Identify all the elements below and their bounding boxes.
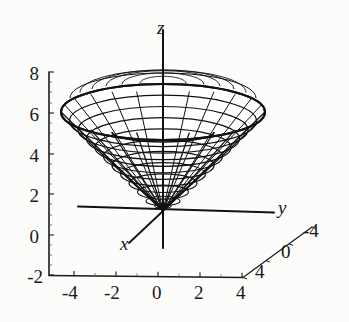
z-axis-name: z — [157, 18, 164, 37]
z-tick-label-6: 6 — [30, 105, 40, 124]
depth-tick-label-neg4: -4 — [303, 221, 319, 240]
z-tick-label-neg2: -2 — [27, 267, 43, 286]
y-axis-line — [78, 207, 274, 213]
x-tick-label-2: 2 — [194, 283, 204, 302]
cone-wireframe-svg — [0, 0, 349, 322]
x-tick-label-4: 4 — [236, 283, 246, 302]
x-tick-label-neg2: -2 — [104, 283, 120, 302]
depth-tick-label-4: 4 — [255, 262, 265, 281]
z-tick-label-2: 2 — [30, 186, 40, 205]
z-tick-label-4: 4 — [30, 146, 40, 165]
x-axis-name: x — [120, 234, 128, 253]
x-tick-label-0: 0 — [152, 283, 162, 302]
z-tick-label-8: 8 — [30, 64, 40, 83]
x-tick-label-neg4: -4 — [62, 283, 78, 302]
x-axis-line — [129, 211, 163, 243]
y-axis-name: y — [278, 198, 286, 217]
z-tick-label-0: 0 — [30, 227, 40, 246]
depth-tick-label-0: 0 — [281, 242, 291, 261]
cone-surface-plot-figure: 8 6 4 2 0 -2 -4 -2 0 2 4 4 0 -4 z y x — [0, 0, 349, 322]
x-axis-spine — [49, 276, 243, 278]
depth-axis-spine — [243, 227, 312, 278]
